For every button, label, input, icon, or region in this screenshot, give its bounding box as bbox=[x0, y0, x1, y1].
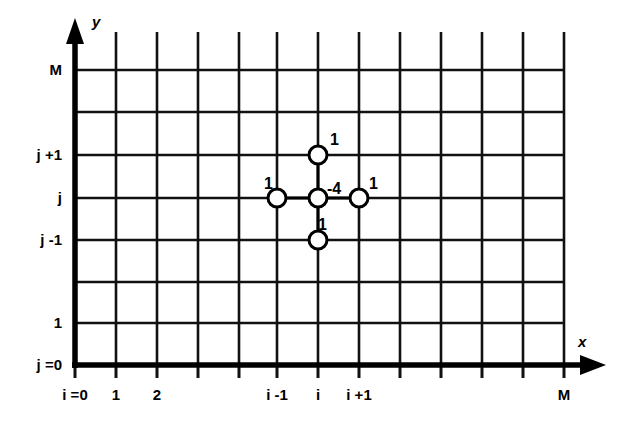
stencil-weight-west: 1 bbox=[264, 176, 273, 192]
stencil-diagram: y x j =01j -1jj +1M i =012i -1ii +1M 111… bbox=[0, 0, 624, 434]
x-axis bbox=[72, 355, 606, 375]
diagram-canvas bbox=[0, 0, 624, 434]
stencil-weight-north: 1 bbox=[330, 132, 339, 148]
y-tick-label-3: j -1 bbox=[0, 232, 62, 247]
stencil-node-east bbox=[350, 189, 368, 207]
y-tick-label-1: 1 bbox=[0, 315, 62, 330]
x-tick-label-7: i +1 bbox=[329, 387, 389, 402]
y-tick-label-7: M bbox=[0, 62, 62, 77]
x-axis-name: x bbox=[578, 334, 586, 349]
stencil-weight-south: 1 bbox=[318, 217, 327, 233]
x-tick-label-12: M bbox=[534, 387, 594, 402]
x-tick-label-2: 2 bbox=[127, 387, 187, 402]
stencil-node-south bbox=[309, 231, 327, 249]
stencil-node-north bbox=[309, 146, 327, 164]
stencil-weight-center: -4 bbox=[327, 181, 341, 197]
x-axis-arrowhead bbox=[580, 355, 606, 375]
y-axis-arrowhead bbox=[66, 18, 84, 44]
stencil-weight-east: 1 bbox=[369, 176, 378, 192]
y-tick-label-0: j =0 bbox=[0, 357, 62, 372]
y-tick-label-4: j bbox=[0, 190, 62, 205]
y-axis-name: y bbox=[92, 14, 100, 29]
y-tick-label-5: j +1 bbox=[0, 147, 62, 162]
stencil-nodes bbox=[268, 146, 368, 249]
stencil-node-center bbox=[309, 189, 327, 207]
